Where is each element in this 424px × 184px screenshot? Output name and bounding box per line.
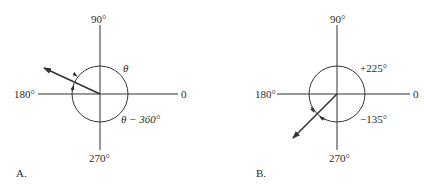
- panel-a-label-90: 90°: [91, 14, 106, 25]
- panel-b-vector-arrow: [293, 94, 337, 138]
- panel-b-negative-angle: −135°: [360, 114, 387, 125]
- panel-b-label-180: 180°: [255, 89, 276, 100]
- panel-b-label-0: 0: [413, 89, 419, 100]
- diagram-canvas: [0, 0, 424, 184]
- panel-a-label-270: 270°: [89, 153, 110, 164]
- panel-b-positive-angle: +225°: [360, 63, 387, 74]
- panel-b-label-90: 90°: [330, 14, 345, 25]
- panel-b-label-270: 270°: [329, 153, 350, 164]
- panel-a-diagram: [38, 25, 178, 150]
- panel-b-diagram: [277, 25, 410, 150]
- panel-a-caption: A.: [16, 167, 27, 179]
- panel-a-negative-angle: θ − 360°: [121, 114, 160, 125]
- panel-a-ccw-arrowhead: [74, 74, 77, 76]
- panel-a-label-180: 180°: [14, 89, 35, 100]
- panel-a-positive-angle: θ: [123, 63, 128, 74]
- panel-a-label-0: 0: [181, 89, 187, 100]
- panel-b-caption: B.: [256, 167, 266, 179]
